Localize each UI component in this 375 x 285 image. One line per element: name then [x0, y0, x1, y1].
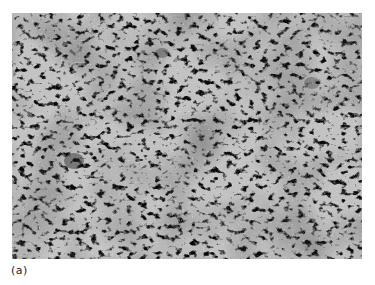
- histology-micrograph: [12, 13, 362, 259]
- micrograph-image: [12, 13, 362, 259]
- panel-label: (a): [11, 264, 28, 277]
